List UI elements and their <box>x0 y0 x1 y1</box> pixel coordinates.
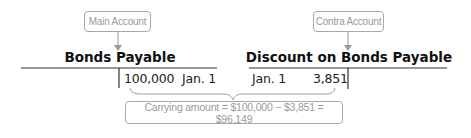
contra-account-label: Contra Account <box>316 16 382 27</box>
main-account-label: Main Account <box>89 16 147 27</box>
carrying-amount-text: Carrying amount = $100,000 − $3,851 = $9… <box>126 101 342 125</box>
discount-on-bonds-payable-title: Discount on Bonds Payable <box>246 49 452 65</box>
main-account-callout: Main Account <box>84 11 151 32</box>
bonds-payable-title: Bonds Payable <box>64 49 175 65</box>
bonds-payable-credit-amount: 100,000 <box>124 71 174 86</box>
discount-debit-amount: 3,851 <box>313 71 348 86</box>
carrying-amount-callout: Carrying amount = $100,000 − $3,851 = $9… <box>125 101 343 124</box>
bonds-payable-credit-date: Jan. 1 <box>182 71 216 86</box>
contra-account-callout: Contra Account <box>313 11 384 32</box>
discount-debit-date: Jan. 1 <box>252 71 286 86</box>
